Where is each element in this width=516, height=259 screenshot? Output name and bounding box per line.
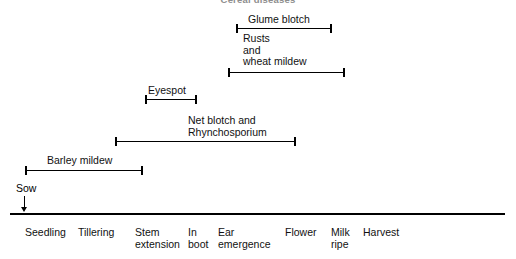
stage-label-milk-ripe: Milkripe	[331, 226, 350, 250]
stage-label-line: Harvest	[363, 226, 399, 238]
band-duration-bar-barley-mildew	[25, 166, 143, 175]
stage-label-ear-emergence: Earemergence	[218, 226, 271, 250]
band-label-net-blotch-and-rhynchosporium: Net blotch andRhynchosporium	[188, 115, 267, 138]
bar-rule	[228, 72, 345, 73]
bar-rule	[236, 28, 332, 29]
band-label-barley-mildew: Barley mildew	[47, 155, 112, 167]
stage-label-flower: Flower	[285, 226, 317, 238]
stage-label-line: extension	[135, 238, 180, 250]
bar-cap-left	[115, 137, 117, 146]
bar-cap-left	[25, 166, 27, 175]
band-label-line: Rusts	[243, 33, 307, 45]
bar-cap-right	[330, 24, 332, 33]
stage-label-line: Flower	[285, 226, 317, 238]
stage-label-line: Ear	[218, 226, 271, 238]
bar-rule	[25, 170, 143, 171]
band-duration-bar-net-blotch-and-rhynchosporium	[115, 137, 296, 146]
sow-label: Sow	[16, 182, 36, 194]
bar-rule	[115, 141, 296, 142]
stage-label-tillering: Tillering	[78, 226, 114, 238]
figure-title: Cereal diseases	[0, 0, 516, 5]
stage-label-harvest: Harvest	[363, 226, 399, 238]
cereal-disease-timeline-figure: Cereal diseases Glume blotchRustsandwhea…	[0, 0, 516, 259]
stage-label-line: Tillering	[78, 226, 114, 238]
sow-arrow-shaft	[24, 196, 25, 207]
stage-label-line: In	[188, 226, 208, 238]
stage-label-in-boot: Inboot	[188, 226, 208, 250]
stage-label-line: boot	[188, 238, 208, 250]
stage-label-line: emergence	[218, 238, 271, 250]
band-label-line: wheat mildew	[243, 56, 307, 68]
bar-cap-right	[343, 68, 345, 77]
band-label-line: Barley mildew	[47, 155, 112, 167]
band-duration-bar-eyespot	[145, 95, 197, 104]
band-duration-bar-rusts-and-wheat-mildew	[228, 68, 345, 77]
stage-label-seedling: Seedling	[25, 226, 66, 238]
band-label-line: Net blotch and	[188, 115, 267, 127]
sow-arrow-head	[21, 207, 27, 212]
stage-label-line: Seedling	[25, 226, 66, 238]
bar-cap-left	[236, 24, 238, 33]
growth-stage-axis-line	[10, 213, 505, 215]
bar-cap-right	[195, 95, 197, 104]
stage-label-line: Stem	[135, 226, 180, 238]
stage-label-line: ripe	[331, 238, 350, 250]
bar-cap-left	[145, 95, 147, 104]
stage-label-line: Milk	[331, 226, 350, 238]
stage-label-stem-extension: Stemextension	[135, 226, 180, 250]
bar-rule	[145, 99, 197, 100]
bar-cap-left	[228, 68, 230, 77]
bar-cap-right	[294, 137, 296, 146]
band-label-rusts-and-wheat-mildew: Rustsandwheat mildew	[243, 33, 307, 68]
bar-cap-right	[141, 166, 143, 175]
